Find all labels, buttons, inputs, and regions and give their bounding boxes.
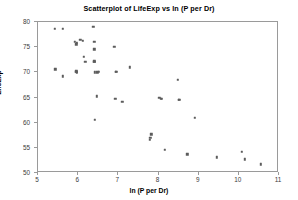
y-axis-tick-label: 75 — [12, 43, 30, 50]
y-axis-tick-label: 50 — [12, 169, 30, 176]
data-point — [76, 72, 78, 74]
data-point — [128, 66, 130, 68]
data-point — [82, 39, 84, 41]
x-axis-title: ln (P per Dr) — [0, 187, 298, 194]
x-axis-tick-label: 10 — [228, 176, 248, 183]
y-axis-tick — [34, 21, 37, 22]
scatterplot-figure: Scatterplot of LifeExp vs ln (P per Dr) … — [0, 0, 298, 200]
x-axis-tick-label: 8 — [148, 176, 168, 183]
data-point — [244, 158, 246, 160]
x-axis-tick — [117, 172, 118, 175]
y-axis-tick — [34, 71, 37, 72]
x-axis-tick — [238, 172, 239, 175]
x-axis-tick-label: 7 — [107, 176, 127, 183]
data-point — [164, 149, 166, 151]
data-point — [121, 101, 123, 103]
data-point — [113, 45, 115, 47]
x-axis-tick — [77, 172, 78, 175]
chart-title: Scatterplot of LifeExp vs ln (P per Dr) — [0, 4, 298, 13]
y-axis-tick-label: 80 — [12, 18, 30, 25]
data-point — [115, 71, 117, 73]
y-axis-tick — [34, 97, 37, 98]
x-axis-tick — [278, 172, 279, 175]
data-point — [54, 28, 56, 30]
y-axis-title: LifeExp — [0, 70, 2, 95]
y-axis-tick-label: 65 — [12, 93, 30, 100]
y-axis-tick-label: 60 — [12, 118, 30, 125]
x-axis-tick — [198, 172, 199, 175]
data-point — [62, 75, 64, 77]
data-point — [92, 25, 94, 27]
y-axis-tick — [34, 122, 37, 123]
y-axis-tick — [34, 46, 37, 47]
y-axis-tick — [34, 147, 37, 148]
x-axis-tick-label: 5 — [27, 176, 47, 183]
data-point — [83, 56, 85, 58]
x-axis-tick-label: 11 — [268, 176, 288, 183]
data-points-layer — [38, 22, 277, 171]
data-point — [54, 68, 56, 70]
data-point — [93, 48, 95, 50]
x-axis-tick — [37, 172, 38, 175]
data-point — [186, 153, 188, 155]
x-axis-tick-label: 9 — [188, 176, 208, 183]
data-point — [94, 118, 96, 120]
data-point — [150, 133, 152, 135]
data-point — [161, 98, 163, 100]
plot-area — [37, 21, 278, 172]
data-point — [62, 28, 64, 30]
data-point — [241, 151, 243, 153]
data-point — [93, 40, 95, 42]
data-point — [177, 79, 179, 81]
y-axis-tick-label: 70 — [12, 68, 30, 75]
x-axis-tick — [158, 172, 159, 175]
data-point — [114, 98, 116, 100]
y-axis-tick-label: 55 — [12, 143, 30, 150]
data-point — [193, 116, 195, 118]
data-point — [93, 61, 95, 63]
data-point — [84, 61, 86, 63]
data-point — [260, 163, 262, 165]
x-axis-tick-label: 6 — [67, 176, 87, 183]
data-point — [216, 156, 218, 158]
data-point — [148, 139, 150, 141]
data-point — [95, 95, 97, 97]
